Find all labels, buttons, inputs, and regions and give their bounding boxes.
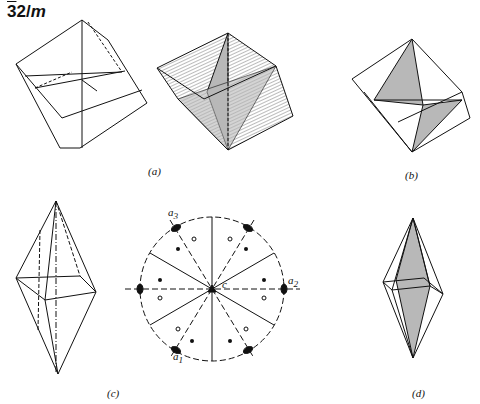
- figure-c: [16, 201, 96, 374]
- axis-a3-label: a3: [168, 206, 178, 221]
- stereogram: [125, 217, 300, 361]
- label-d: (d): [412, 387, 425, 399]
- label-a: (a): [148, 165, 161, 177]
- label-b: (b): [405, 169, 418, 181]
- crystal-figures: [0, 0, 480, 404]
- axis-a1-label: a1: [173, 350, 183, 365]
- c-axis-label: c: [222, 278, 227, 290]
- figure-a-right: [157, 33, 293, 150]
- figure-b: [352, 39, 470, 152]
- label-c: (c): [107, 387, 119, 399]
- figure-a-left: [16, 20, 147, 148]
- figure-d: [383, 218, 443, 358]
- axis-a2-label: a2: [288, 274, 298, 289]
